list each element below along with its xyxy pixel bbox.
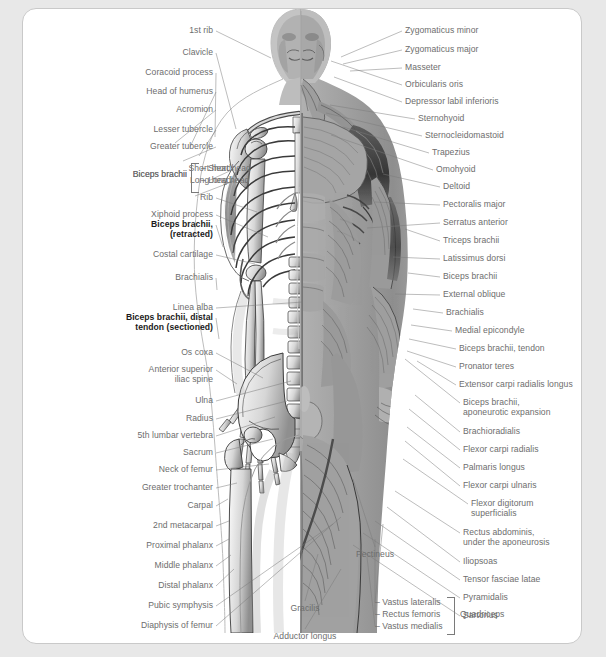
label-right-1: Zygomaticus major — [405, 45, 478, 55]
label-right-6: Sternocleidomastoid — [425, 131, 504, 141]
label-left-22: Sacrum — [23, 448, 213, 458]
label-right-0: Zygomaticus minor — [405, 26, 478, 36]
label-right-21: Biceps brachii, aponeurotic expansion — [463, 398, 551, 417]
label-left-2: Coracoid process — [23, 68, 213, 78]
label-left-16: Biceps brachii, distal tendon (sectioned… — [23, 313, 213, 332]
label-left-6: Greater tubercle — [23, 142, 213, 152]
label-bottom-2: Adductor longus — [245, 632, 365, 642]
label-bottom-1: Gracilis — [245, 604, 365, 614]
label-left-17: Os coxa — [23, 348, 213, 358]
label-right-18: Biceps brachii, tendon — [459, 344, 545, 354]
label-right-14: Biceps brachii — [443, 272, 497, 282]
label-left-12: Biceps brachii, (retracted) — [23, 220, 213, 239]
label-right-5: Sternohyoid — [418, 114, 464, 124]
label-right-2: Masseter — [405, 63, 441, 73]
label-right-9: Deltoid — [443, 182, 470, 192]
quadriceps-item-1: – Rectus femoris — [375, 610, 440, 620]
plate-stage: 1st ribClavicleCoracoid processHead of h… — [23, 9, 582, 644]
label-right-10: Pectoralis major — [443, 200, 505, 210]
anatomy-plate: 1st ribClavicleCoracoid processHead of h… — [22, 8, 582, 644]
label-right-4: Depressor labil inferioris — [405, 97, 498, 107]
label-left-10: Rib — [23, 193, 213, 203]
label-right-28: Iliopsoas — [463, 557, 497, 567]
label-right-12: Triceps brachii — [443, 236, 499, 246]
label-left-1: Clavicle — [23, 48, 213, 58]
label-right-27: Rectus abdominis, under the aponeurosis — [463, 528, 550, 547]
label-left-21: 5th lumbar vertebra — [23, 431, 213, 441]
label-left-28: Middle phalanx — [23, 561, 213, 571]
label-right-11: Serratus anterior — [443, 218, 508, 228]
label-left-19: Ulna — [23, 396, 213, 406]
label-left-13: Costal cartilage — [23, 250, 213, 260]
quadriceps-item-0: – Vastus lateralis — [375, 598, 441, 608]
label-right-26: Flexor digitorum superficialis — [471, 499, 533, 518]
label-right-16: Brachialis — [446, 308, 484, 318]
label-bottom-0: Pectineus — [315, 550, 435, 560]
label-right-7: Trapezius — [432, 148, 470, 158]
label-left-29: Distal phalanx — [23, 581, 213, 591]
label-right-30: Pyramidalis — [463, 593, 508, 603]
label-left-27: Proximal phalanx — [23, 541, 213, 551]
label-left-25: Carpal — [23, 501, 213, 511]
label-left-3: Head of humerus — [23, 87, 213, 97]
label-right-22: Brachioradialis — [463, 427, 520, 437]
label-left-5: Lesser tubercle — [23, 125, 213, 135]
label-right-29: Tensor fasciae latae — [463, 575, 540, 585]
biceps-brachii-bracket — [191, 163, 199, 193]
label-right-24: Palmaris longus — [463, 463, 525, 473]
label-left-31: Diaphysis of femur — [23, 621, 213, 631]
quadriceps-group-label: Quadriceps — [460, 610, 504, 620]
label-left-30: Pubic symphysis — [23, 601, 213, 611]
label-right-19: Pronator teres — [459, 362, 514, 372]
label-left-23: Neck of femur — [23, 465, 213, 475]
label-right-3: Orbicularis oris — [405, 80, 463, 90]
label-right-25: Flexor carpi ulnaris — [463, 481, 537, 491]
label-right-23: Flexor carpi radialis — [463, 445, 539, 455]
label-left-24: Greater trochanter — [23, 483, 213, 493]
biceps-brachii-group-label: Biceps brachii — [23, 170, 187, 180]
label-left-14: Brachialis — [23, 273, 213, 283]
label-right-8: Omohyoid — [436, 165, 476, 175]
label-left-20: Radius — [23, 414, 213, 424]
label-right-13: Latissimus dorsi — [443, 254, 505, 264]
biceps-brachii-item-0: – Short head — [201, 164, 251, 174]
quadriceps-bracket — [447, 597, 455, 635]
label-right-20: Extensor carpi radialis longus — [459, 380, 573, 390]
label-left-26: 2nd metacarpal — [23, 521, 213, 531]
quadriceps-item-2: – Vastus medialis — [375, 622, 443, 632]
label-right-17: Medial epicondyle — [455, 326, 525, 336]
label-left-4: Acromion — [23, 105, 213, 115]
label-left-18: Anterior superior iliac spine — [23, 365, 213, 384]
biceps-brachii-item-1: – Long head — [201, 176, 249, 186]
label-left-0: 1st rib — [23, 26, 213, 36]
label-right-15: External oblique — [443, 290, 505, 300]
